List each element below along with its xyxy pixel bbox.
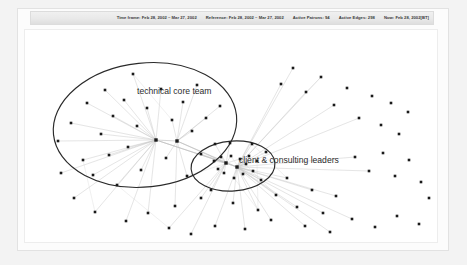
graph-node[interactable] (147, 212, 150, 215)
graph-node[interactable] (351, 218, 354, 221)
graph-node[interactable] (174, 205, 177, 208)
graph-node[interactable] (304, 225, 307, 228)
graph-node[interactable] (407, 111, 410, 114)
graph-node[interactable] (108, 154, 111, 157)
graph-node[interactable] (286, 177, 289, 180)
graph-node[interactable] (229, 142, 232, 145)
graph-node[interactable] (418, 223, 421, 226)
graph-node[interactable] (374, 226, 377, 229)
graph-node[interactable] (70, 122, 73, 125)
cluster-label-0: technical core team (137, 86, 212, 96)
network-graph[interactable]: technical core teamclient & consulting l… (25, 30, 437, 242)
graph-node[interactable] (305, 91, 308, 94)
graph-node[interactable] (223, 172, 226, 175)
graph-node[interactable] (333, 104, 336, 107)
graph-node[interactable] (257, 209, 260, 212)
graph-node[interactable] (186, 175, 189, 178)
graph-node[interactable] (252, 170, 255, 173)
graph-node[interactable] (116, 184, 119, 187)
graph-edges (58, 68, 369, 234)
graph-node[interactable] (205, 117, 208, 120)
graph-node[interactable] (292, 67, 295, 70)
graph-node[interactable] (311, 189, 314, 192)
cluster-labels: technical core teamclient & consulting l… (137, 86, 339, 165)
graph-node[interactable] (123, 99, 126, 102)
graph-node[interactable] (171, 119, 174, 122)
graph-node[interactable] (398, 133, 401, 136)
graph-node[interactable] (86, 102, 89, 105)
graph-node[interactable] (214, 143, 217, 146)
graph-node[interactable] (320, 76, 323, 79)
graph-node[interactable] (213, 160, 216, 163)
graph-nodes[interactable] (57, 67, 431, 236)
graph-node[interactable] (112, 115, 115, 118)
graph-node[interactable] (428, 197, 431, 200)
graph-node[interactable] (371, 95, 374, 98)
status-item-2: Active Patrons: 94 (293, 16, 330, 20)
graph-node[interactable] (260, 179, 263, 182)
graph-node[interactable] (73, 197, 76, 200)
graph-node[interactable] (235, 165, 238, 168)
graph-node[interactable] (200, 153, 203, 156)
graph-node[interactable] (233, 177, 236, 180)
graph-node[interactable] (217, 168, 220, 171)
graph-node[interactable] (280, 83, 283, 86)
graph-node[interactable] (420, 181, 423, 184)
graph-node[interactable] (214, 225, 217, 228)
graph-node[interactable] (154, 138, 157, 141)
graph-node[interactable] (396, 215, 399, 218)
cluster-label-1: client & consulting leaders (239, 155, 339, 165)
status-item-0: Time frame: Feb 28, 2002 – Mar 27, 2002 (117, 16, 197, 20)
graph-node[interactable] (265, 151, 268, 154)
graph-node[interactable] (220, 156, 223, 159)
graph-node[interactable] (125, 220, 128, 223)
graph-node[interactable] (232, 202, 235, 205)
graph-node[interactable] (329, 231, 332, 234)
graph-node[interactable] (251, 143, 254, 146)
graph-node[interactable] (210, 189, 213, 192)
graph-node[interactable] (244, 228, 247, 231)
graph-node[interactable] (230, 155, 233, 158)
graph-node[interactable] (92, 174, 95, 177)
graph-node[interactable] (296, 206, 299, 209)
graph-node[interactable] (146, 107, 149, 110)
graph-node[interactable] (57, 140, 60, 143)
graph-node[interactable] (132, 73, 135, 76)
graph-node[interactable] (354, 156, 357, 159)
graph-node[interactable] (127, 146, 130, 149)
graph-node[interactable] (382, 152, 385, 155)
graph-node[interactable] (270, 219, 273, 222)
graph-node[interactable] (168, 227, 171, 230)
graph-node[interactable] (60, 172, 63, 175)
graph-node[interactable] (380, 124, 383, 127)
graph-node[interactable] (358, 117, 361, 120)
graph-node[interactable] (275, 194, 278, 197)
graph-node[interactable] (390, 102, 393, 105)
graph-node[interactable] (191, 130, 194, 133)
graph-node[interactable] (94, 211, 97, 214)
graph-node[interactable] (175, 139, 178, 142)
graph-node[interactable] (346, 87, 349, 90)
status-item-3: Active Edges: 298 (339, 16, 375, 20)
graph-node[interactable] (82, 159, 85, 162)
graph-node[interactable] (136, 125, 139, 128)
graph-canvas[interactable]: technical core teamclient & consulting l… (24, 29, 438, 243)
status-item-4: Now: Feb 28, 2002[BT] (384, 16, 429, 20)
graph-node[interactable] (190, 233, 193, 236)
graph-node[interactable] (408, 159, 411, 162)
graph-node[interactable] (219, 105, 222, 108)
graph-node[interactable] (335, 195, 338, 198)
graph-node[interactable] (368, 170, 371, 173)
graph-node[interactable] (224, 161, 227, 164)
graph-node[interactable] (242, 173, 245, 176)
graph-node[interactable] (394, 175, 397, 178)
graph-node[interactable] (200, 197, 203, 200)
graph-node[interactable] (104, 89, 107, 92)
graph-node[interactable] (165, 157, 168, 160)
graph-node[interactable] (322, 212, 325, 215)
graph-node[interactable] (100, 133, 103, 136)
graph-node[interactable] (140, 169, 143, 172)
status-bar-items: Time frame: Feb 28, 2002 – Mar 27, 2002R… (117, 16, 429, 20)
status-bar: Time frame: Feb 28, 2002 – Mar 27, 2002R… (30, 11, 434, 25)
graph-node[interactable] (182, 101, 185, 104)
